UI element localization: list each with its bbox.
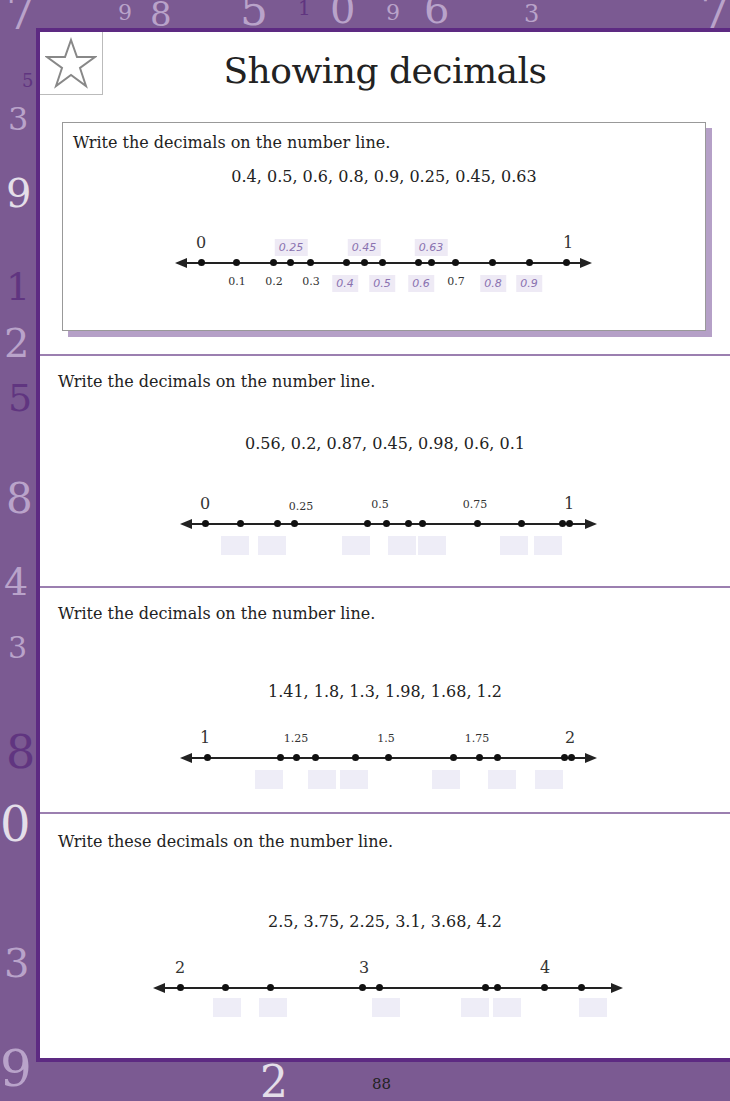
answer-blank[interactable] [535, 770, 563, 789]
decor-numeral: 9 [0, 1040, 32, 1098]
mid-label: 3 [359, 958, 369, 977]
answer-blank[interactable] [493, 998, 521, 1017]
answer-blank[interactable] [388, 536, 416, 555]
number-line: 2 3 4 [153, 958, 633, 1018]
instruction: Write the decimals on the number line. [58, 372, 375, 391]
example-box: Write the decimals on the number line. 0… [62, 122, 706, 331]
answer-blank[interactable] [500, 536, 528, 555]
answer-blank[interactable] [308, 770, 336, 789]
end-label: 1 [563, 233, 573, 252]
decor-numeral: 5 [8, 376, 32, 420]
decor-numeral: 3 [8, 630, 27, 665]
start-label: 1 [200, 728, 210, 747]
answer-blank[interactable] [255, 770, 283, 789]
answer-label: 0.6 [408, 275, 434, 292]
decor-numeral: 4 [4, 560, 28, 604]
exercise-3: Write the decimals on the number line. 1… [40, 586, 730, 814]
answer-blank[interactable] [213, 998, 241, 1017]
answer-label: 0.8 [480, 275, 506, 292]
exercise-4: Write these decimals on the number line.… [40, 812, 730, 1062]
decor-numeral: 3 [524, 0, 539, 28]
answer-label: 0.5 [369, 275, 395, 292]
number-line: 1 2 1.25 1.5 1.75 [180, 728, 600, 788]
answer-blank[interactable] [372, 998, 400, 1017]
end-label: 1 [564, 494, 574, 513]
decor-numeral: 7 [6, 0, 35, 40]
answer-blank[interactable] [221, 536, 249, 555]
tick-label: 1.25 [284, 732, 309, 745]
number-line: 0 1 0.25 0.45 0.63 0.1 0.2 [175, 233, 595, 293]
decor-numeral: 3 [4, 940, 29, 986]
decor-numeral: 9 [118, 0, 132, 25]
instruction: Write the decimals on the number line. [58, 604, 375, 623]
decor-numeral: 0 [0, 796, 31, 852]
answer-label: 0.9 [516, 275, 542, 292]
answer-blank[interactable] [258, 536, 286, 555]
number-list: 0.4, 0.5, 0.6, 0.8, 0.9, 0.25, 0.45, 0.6… [63, 167, 705, 186]
tick-label: 0.25 [289, 500, 314, 513]
end-label: 2 [565, 728, 575, 747]
start-label: 0 [200, 494, 210, 513]
tick-label: 0.5 [371, 498, 389, 511]
decor-numeral: 2 [260, 1056, 288, 1101]
decor-numeral: 3 [8, 100, 28, 138]
decor-numeral: 1 [298, 0, 311, 20]
answer-blank[interactable] [534, 536, 562, 555]
answer-label: 0.4 [332, 275, 358, 292]
answer-blank[interactable] [259, 998, 287, 1017]
start-label: 2 [175, 958, 185, 977]
decor-numeral: 8 [6, 474, 33, 523]
answer-label: 0.45 [348, 239, 381, 256]
page-number: 88 [372, 1075, 391, 1093]
answer-blank[interactable] [340, 770, 368, 789]
decor-numeral: 9 [6, 170, 31, 216]
answer-label: 0.63 [415, 239, 448, 256]
number-list: 2.5, 3.75, 2.25, 3.1, 3.68, 4.2 [40, 912, 730, 931]
answer-blank[interactable] [432, 770, 460, 789]
tick-label: 0.7 [447, 275, 465, 288]
decor-numeral: 9 [386, 0, 400, 25]
decor-numeral: 1 [6, 265, 30, 309]
decor-numeral: 2 [4, 320, 29, 366]
number-list: 0.56, 0.2, 0.87, 0.45, 0.98, 0.6, 0.1 [40, 434, 730, 453]
tick-label: 0.75 [463, 498, 488, 511]
worksheet-page: Showing decimals Write the decimals on t… [36, 28, 730, 1062]
decor-numeral: 8 [6, 725, 35, 779]
tick-label: 0.1 [228, 275, 246, 288]
tick-label: 1.75 [465, 732, 490, 745]
exercise-1: Write the decimals on the number line. 0… [40, 32, 730, 356]
exercise-2: Write the decimals on the number line. 0… [40, 354, 730, 588]
start-label: 0 [196, 233, 206, 252]
tick-label: 0.3 [302, 275, 320, 288]
number-list: 1.41, 1.8, 1.3, 1.98, 1.68, 1.2 [40, 682, 730, 701]
decor-numeral: 5 [22, 70, 33, 91]
number-line: 0 1 0.25 0.5 0.75 [180, 494, 600, 554]
tick-label: 0.2 [265, 275, 283, 288]
answer-blank[interactable] [342, 536, 370, 555]
tick-label: 1.5 [377, 732, 395, 745]
answer-blank[interactable] [579, 998, 607, 1017]
instruction: Write these decimals on the number line. [58, 832, 393, 851]
answer-blank[interactable] [488, 770, 516, 789]
answer-blank[interactable] [461, 998, 489, 1017]
instruction: Write the decimals on the number line. [73, 133, 390, 152]
end-label: 4 [540, 958, 550, 977]
answer-blank[interactable] [418, 536, 446, 555]
answer-label: 0.25 [275, 239, 308, 256]
